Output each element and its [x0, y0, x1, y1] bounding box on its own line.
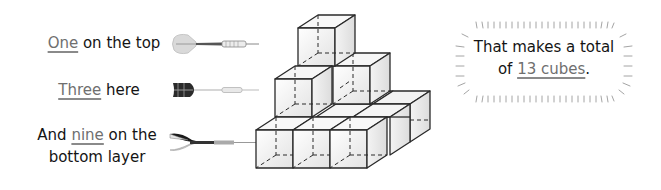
label-top-layer: One on the top: [44, 32, 164, 54]
label-bottom-line2: bottom layer: [49, 148, 146, 166]
label-bottom-rest: on the: [104, 126, 157, 144]
label-bottom-layer: And nine on thebottom layer: [28, 124, 166, 168]
cube-top: [298, 15, 355, 66]
label-bottom-prefix: And: [37, 126, 71, 144]
dart-light-icon: [166, 30, 261, 58]
label-middle-rest: here: [101, 81, 140, 99]
callout-text: That makes a totalof 13 cubes.: [448, 36, 640, 80]
highlight-nine: nine: [71, 126, 103, 144]
label-middle-layer: Three here: [44, 79, 154, 101]
dart-black-white-icon: [166, 128, 261, 156]
dart-dark-icon: [166, 76, 261, 104]
cube-pyramid-diagram: [250, 0, 450, 190]
callout-suffix: .: [585, 60, 590, 78]
callout-line1: That makes a total: [474, 38, 615, 56]
highlight-one: One: [48, 34, 79, 52]
callout-prefix: of: [498, 60, 517, 78]
highlight-total: 13 cubes: [517, 60, 585, 78]
highlight-three: Three: [58, 81, 101, 99]
label-top-rest: on the top: [78, 34, 160, 52]
